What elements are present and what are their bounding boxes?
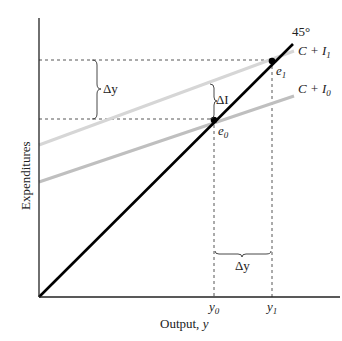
e0-label: e0 [218, 123, 229, 140]
y-axis-label: Expenditures [18, 141, 33, 210]
delta-i-label: ΔI [216, 92, 229, 107]
c-plus-i1-line [39, 51, 294, 145]
y0-tick-label: y0 [207, 299, 220, 316]
delta-y-horizontal-label: Δy [235, 258, 250, 273]
x-axis-label: Output, y [160, 316, 209, 331]
e0-point [211, 117, 218, 124]
delta-y-vertical-label: Δy [103, 81, 118, 96]
delta-y-horizontal-brace [215, 251, 271, 257]
y1-tick-label: y1 [265, 299, 277, 316]
e1-point [269, 58, 276, 65]
keynesian-cross-diagram: 45° C + I1 C + I0 e1 e0 Δy ΔI Δy y0 y1 O… [0, 0, 342, 341]
e1-label: e1 [276, 63, 286, 80]
c-plus-i1-label: C + I1 [298, 43, 331, 60]
forty-five-label: 45° [292, 24, 310, 39]
delta-y-vertical-brace [92, 60, 101, 119]
c-plus-i0-label: C + I0 [298, 81, 331, 98]
